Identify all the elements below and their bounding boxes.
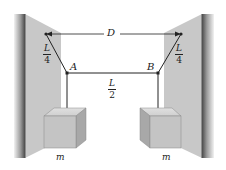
physics-diagram: D A B L 4 L 2 L 4 m m — [0, 0, 226, 170]
middle-cable-length: L 2 — [108, 79, 116, 100]
left-mass-box — [44, 108, 86, 148]
mass-right-label: m — [162, 153, 171, 162]
point-b-marker — [157, 72, 160, 75]
right-mass-box — [140, 108, 181, 148]
point-a-marker — [66, 72, 69, 75]
left-anchor-point — [44, 32, 47, 35]
left-cable-length: L 4 — [43, 44, 51, 65]
right-anchor-point — [179, 32, 182, 35]
right-cable-length: L 4 — [175, 44, 183, 65]
distance-label: D — [107, 28, 115, 38]
point-b-label: B — [147, 62, 154, 72]
mass-left-label: m — [56, 153, 65, 162]
point-a-label: A — [70, 62, 77, 72]
